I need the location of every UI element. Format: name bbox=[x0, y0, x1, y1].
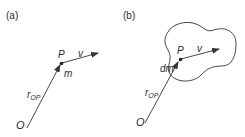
panel-b-label: (b) bbox=[123, 10, 135, 21]
position-label: rOP bbox=[27, 89, 41, 101]
panel-a-label: (a) bbox=[6, 10, 18, 21]
mass-label: m bbox=[64, 68, 72, 79]
origin-label: O bbox=[16, 119, 25, 131]
point-p-dot bbox=[179, 58, 183, 62]
position-label-sub: OP bbox=[148, 92, 158, 99]
point-p-label: P bbox=[58, 49, 65, 60]
position-label-sub: OP bbox=[30, 94, 40, 101]
velocity-label: v bbox=[197, 43, 203, 54]
diagram-canvas: (a) P v m rOP O (b) P v dm rOP O bbox=[0, 0, 245, 137]
panel-a: (a) P v m rOP O bbox=[6, 10, 98, 131]
point-p-dot bbox=[60, 62, 64, 66]
position-label: rOP bbox=[145, 87, 159, 99]
panel-b: (b) P v dm rOP O bbox=[123, 10, 236, 128]
point-p-label: P bbox=[177, 45, 184, 56]
origin-label: O bbox=[136, 116, 145, 128]
mass-element-label: dm bbox=[160, 63, 174, 74]
